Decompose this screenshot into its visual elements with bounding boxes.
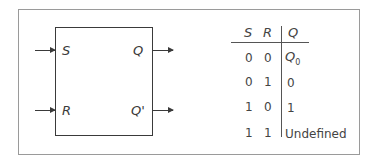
row3-s: 1 <box>245 101 253 113</box>
column-divider <box>281 26 282 137</box>
row1-r: 0 <box>264 52 272 64</box>
row1-q: Q0 <box>285 51 300 69</box>
input-s-label: S <box>62 44 70 57</box>
row2-r: 1 <box>264 76 272 88</box>
output-q-label: Q <box>133 44 143 57</box>
header-r: R <box>263 27 272 39</box>
row3-q: 1 <box>287 102 295 114</box>
row2-s: 0 <box>245 76 253 88</box>
header-s: S <box>244 27 252 39</box>
row3-r: 0 <box>264 101 272 113</box>
input-s-arrow-icon <box>35 50 55 51</box>
row2-q: 0 <box>287 77 295 89</box>
input-r-label: R <box>62 104 71 117</box>
row1-q-value: Q <box>285 49 295 64</box>
row4-s: 1 <box>245 127 253 139</box>
output-qbar-label: Q' <box>131 104 145 117</box>
output-qbar-arrow-icon <box>153 110 173 111</box>
row4-q: Undefined <box>285 128 347 140</box>
output-q-arrow-icon <box>153 50 173 51</box>
input-r-arrow-icon <box>35 110 55 111</box>
row1-s: 0 <box>245 52 253 64</box>
header-q: Q <box>288 27 298 39</box>
header-divider <box>231 42 309 43</box>
row1-q-subscript: 0 <box>295 58 300 67</box>
row4-r: 1 <box>264 127 272 139</box>
